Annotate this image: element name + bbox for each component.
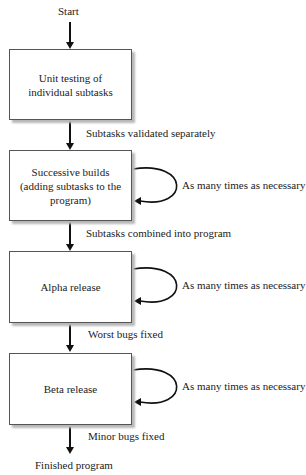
box-line: Unit testing of bbox=[39, 72, 103, 84]
transition-label-4: Minor bugs fixed bbox=[88, 430, 164, 442]
box-line: program) bbox=[50, 194, 91, 206]
box-line: Alpha release bbox=[40, 281, 100, 293]
box-line: individual subtasks bbox=[28, 86, 113, 98]
box-line: Beta release bbox=[44, 383, 97, 395]
box-line: (adding subtasks to the bbox=[20, 180, 121, 192]
step-unit-testing: Unit testing ofindividual subtasks bbox=[9, 49, 132, 120]
transition-label-1: Subtasks validated separately bbox=[86, 127, 216, 139]
step-alpha-release: Alpha release bbox=[9, 251, 132, 323]
transition-label-3: Worst bugs fixed bbox=[88, 328, 163, 340]
start-label: Start bbox=[58, 5, 79, 17]
transition-label-2: Subtasks combined into program bbox=[86, 227, 231, 239]
step-beta-release: Beta release bbox=[9, 353, 132, 425]
step-successive-builds: Successive builds(adding subtasks to the… bbox=[9, 150, 132, 221]
loop-label-3: As many times as necessary bbox=[182, 380, 305, 392]
loop-label-1: As many times as necessary bbox=[182, 179, 305, 191]
box-line: Successive builds bbox=[32, 166, 110, 178]
end-label: Finished program bbox=[35, 459, 113, 471]
loop-label-2: As many times as necessary bbox=[182, 279, 305, 291]
